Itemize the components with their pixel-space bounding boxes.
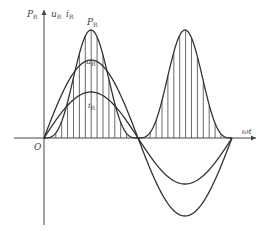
power-area-hatching: [50, 30, 227, 138]
curve-label-current: iR: [88, 101, 96, 111]
x-axis-label: ωt: [242, 127, 253, 136]
curve-label-voltage: uR: [86, 57, 96, 67]
curve-label-power: PR: [86, 17, 98, 28]
resistor-power-waveform-diagram: PR uR iR PR uR iR O ωt: [0, 0, 261, 233]
power-curve: [44, 30, 232, 138]
y-axis-label-current: iR: [66, 9, 74, 20]
y-axis-label-power: PR: [26, 9, 38, 20]
origin-label: O: [34, 142, 42, 152]
y-axis-label-voltage: uR: [51, 9, 62, 20]
